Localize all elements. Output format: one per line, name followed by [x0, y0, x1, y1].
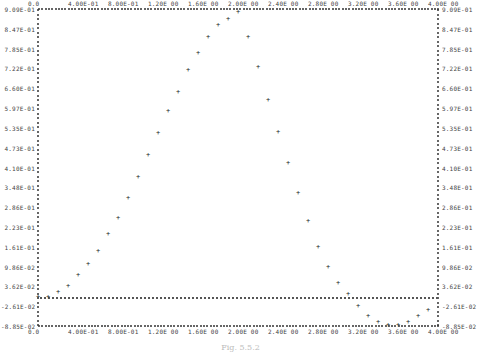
- frame-dot: [37, 126, 39, 128]
- zero-line-dot: [112, 297, 114, 299]
- frame-dot: [190, 8, 192, 10]
- frame-dot: [37, 50, 39, 52]
- zero-line-dot: [124, 297, 126, 299]
- frame-dot: [37, 284, 39, 286]
- zero-line-dot: [96, 297, 98, 299]
- frame-dot: [173, 8, 175, 10]
- frame-dot: [424, 8, 426, 10]
- frame-dot: [302, 325, 304, 327]
- frame-dot: [259, 8, 261, 10]
- frame-dot: [368, 325, 370, 327]
- frame-dot: [37, 81, 39, 83]
- frame-dot: [437, 108, 439, 110]
- data-point: +: [116, 215, 120, 222]
- frame-dot: [203, 8, 205, 10]
- frame-dot: [154, 8, 156, 10]
- frame-dot: [437, 234, 439, 236]
- frame-dot: [104, 8, 106, 10]
- x-tick-label: 8.00E-01: [108, 0, 139, 7]
- frame-dot: [107, 325, 109, 327]
- zero-line-dot: [244, 297, 246, 299]
- frame-dot: [68, 325, 70, 327]
- frame-dot: [437, 230, 439, 232]
- frame-dot: [74, 325, 76, 327]
- frame-dot: [319, 8, 321, 10]
- x-tick-label: 3.20E 00: [348, 0, 379, 7]
- zero-line-dot: [336, 297, 338, 299]
- zero-line-dot: [380, 297, 382, 299]
- zero-line-dot: [204, 297, 206, 299]
- frame-dot: [37, 113, 39, 115]
- frame-dot: [84, 325, 86, 327]
- zero-line-dot: [64, 297, 66, 299]
- frame-dot: [421, 325, 423, 327]
- frame-dot: [437, 324, 439, 326]
- zero-line-dot: [116, 297, 118, 299]
- frame-dot: [107, 8, 109, 10]
- frame-dot: [282, 8, 284, 10]
- data-point: +: [386, 322, 390, 329]
- y-tick-label: -2.61E-02: [442, 303, 476, 310]
- y-tick-label: -8.85E-02: [1, 323, 35, 330]
- frame-dot: [140, 325, 142, 327]
- data-point: +: [146, 152, 150, 159]
- x-tick-label: 8.00E-01: [108, 328, 139, 335]
- frame-dot: [37, 261, 39, 263]
- zero-line-dot: [340, 297, 342, 299]
- y-tick-label: 6.60E-01: [442, 85, 473, 92]
- frame-dot: [37, 320, 39, 322]
- frame-dot: [101, 8, 103, 10]
- frame-dot: [437, 23, 439, 25]
- frame-dot: [58, 325, 60, 327]
- data-point: +: [216, 21, 220, 28]
- frame-dot: [37, 131, 39, 133]
- frame-dot: [213, 8, 215, 10]
- data-point: +: [186, 67, 190, 74]
- frame-dot: [299, 8, 301, 10]
- zero-line-dot: [260, 297, 262, 299]
- frame-dot: [437, 270, 439, 272]
- data-point: +: [46, 294, 50, 301]
- frame-dot: [437, 293, 439, 295]
- frame-dot: [348, 8, 350, 10]
- frame-dot: [37, 27, 39, 29]
- y-tick-label: 2.23E-01: [442, 224, 473, 231]
- frame-dot: [173, 325, 175, 327]
- frame-dot: [243, 8, 245, 10]
- frame-dot: [243, 325, 245, 327]
- x-tick-label: 1.60E 00: [188, 328, 219, 335]
- frame-dot: [437, 36, 439, 38]
- frame-dot: [187, 325, 189, 327]
- frame-dot: [342, 8, 344, 10]
- frame-dot: [371, 325, 373, 327]
- frame-dot: [355, 8, 357, 10]
- frame-dot: [427, 325, 429, 327]
- frame-dot: [101, 325, 103, 327]
- data-point: +: [106, 231, 110, 238]
- frame-dot: [127, 8, 129, 10]
- frame-dot: [51, 325, 53, 327]
- frame-dot: [437, 117, 439, 119]
- zero-line-dot: [364, 297, 366, 299]
- frame-dot: [437, 9, 439, 11]
- zero-line-dot: [180, 297, 182, 299]
- frame-dot: [276, 8, 278, 10]
- frame-dot: [262, 325, 264, 327]
- frame-dot: [325, 8, 327, 10]
- frame-dot: [183, 8, 185, 10]
- zero-line-dot: [168, 297, 170, 299]
- frame-dot: [328, 8, 330, 10]
- frame-dot: [167, 8, 169, 10]
- frame-dot: [437, 189, 439, 191]
- frame-dot: [134, 8, 136, 10]
- frame-dot: [437, 212, 439, 214]
- y-tick-label: 4.10E-01: [1, 165, 35, 172]
- frame-dot: [61, 8, 63, 10]
- frame-dot: [437, 167, 439, 169]
- frame-dot: [37, 275, 39, 277]
- figure-caption: Fig. 5.5.2: [0, 343, 481, 352]
- zero-line-dot: [80, 297, 82, 299]
- y-tick-label: 5.97E-01: [442, 105, 473, 112]
- frame-dot: [437, 248, 439, 250]
- frame-dot: [170, 8, 172, 10]
